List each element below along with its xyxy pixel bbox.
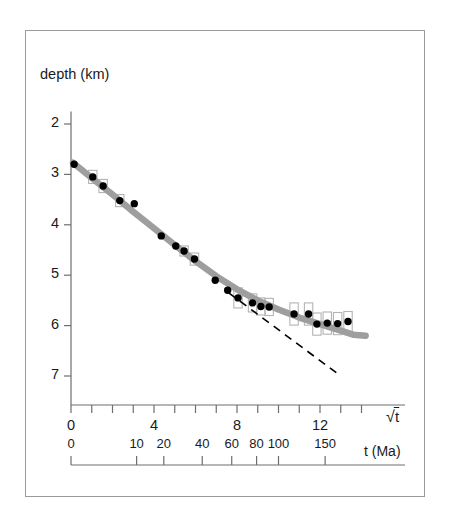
age-tick-label: 0 xyxy=(51,436,91,451)
data-point xyxy=(131,200,138,207)
x-tick-label: 12 xyxy=(300,417,340,433)
data-point xyxy=(344,318,351,325)
data-point xyxy=(116,197,123,204)
data-point xyxy=(70,161,77,168)
data-point xyxy=(249,299,256,306)
data-point xyxy=(224,287,231,294)
model-curve-line xyxy=(73,163,366,336)
data-point xyxy=(212,277,219,284)
data-point xyxy=(334,320,341,327)
age-tick-label: 100 xyxy=(259,436,299,451)
data-point xyxy=(257,303,264,310)
data-point xyxy=(265,303,272,310)
age-tick-label: 150 xyxy=(305,436,345,451)
x-axis-sqrt-title: √ t xyxy=(386,408,399,426)
data-point xyxy=(305,310,312,317)
data-point xyxy=(324,319,331,326)
data-point xyxy=(191,255,198,262)
data-point xyxy=(234,294,241,301)
data-point xyxy=(89,173,96,180)
data-point xyxy=(99,182,106,189)
age-tick-label: 20 xyxy=(144,436,184,451)
data-point xyxy=(180,247,187,254)
x-axis-age-title: t (Ma) xyxy=(364,443,401,459)
y-tick-label: 6 xyxy=(37,316,59,332)
x-tick-label: 4 xyxy=(134,417,174,433)
data-point xyxy=(290,310,297,317)
y-tick-label: 5 xyxy=(37,265,59,281)
model-curve xyxy=(73,163,366,336)
y-tick-label: 2 xyxy=(37,114,59,130)
data-point xyxy=(313,320,320,327)
data-point xyxy=(172,242,179,249)
x-tick-label: 8 xyxy=(217,417,257,433)
errorbars-group xyxy=(89,170,353,335)
y-tick-label: 7 xyxy=(37,366,59,382)
y-tick-label: 3 xyxy=(37,164,59,180)
data-point xyxy=(158,232,165,239)
x-tick-label: 0 xyxy=(51,417,91,433)
y-axis-title: depth (km) xyxy=(40,66,109,82)
y-tick-label: 4 xyxy=(37,215,59,231)
